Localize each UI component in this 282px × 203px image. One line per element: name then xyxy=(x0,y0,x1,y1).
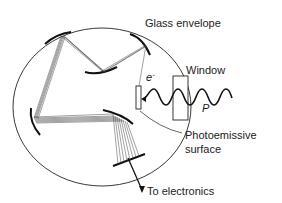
label-photon: P xyxy=(202,102,210,114)
dynode-4 xyxy=(31,108,40,135)
label-window: Window xyxy=(186,64,225,76)
photoemissive-surface xyxy=(136,86,141,109)
photomultiplier-diagram: Glass envelope Window e- P Photoemissive… xyxy=(0,0,282,203)
wave-arrow-icon xyxy=(141,96,146,102)
window xyxy=(173,76,188,120)
output-lead xyxy=(128,158,142,190)
label-glass-envelope: Glass envelope xyxy=(145,17,221,29)
label-surface: surface xyxy=(185,143,221,155)
label-photoemissive: Photoemissive xyxy=(185,129,257,141)
label-electron: e- xyxy=(146,70,155,83)
arrow-head-icon xyxy=(139,186,145,193)
label-to-electronics: To electronics xyxy=(147,185,215,197)
dynode-3 xyxy=(130,34,150,55)
electron-beams xyxy=(34,36,146,164)
